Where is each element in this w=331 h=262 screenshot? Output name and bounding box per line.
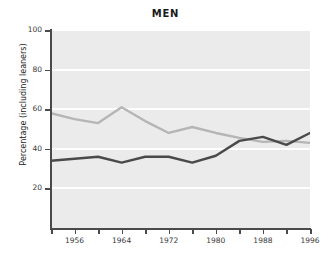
x-axis-tick [51,229,53,234]
x-axis-tick-label: 1996 [300,236,319,245]
chart-title: MEN [0,8,331,19]
y-axis-line [50,29,52,229]
x-axis-tick [310,229,312,234]
y-axis-tick-label: 60 [32,104,42,113]
x-axis-tick [263,229,265,234]
x-axis-tick [75,229,77,234]
series-line-dark-gray-line [51,133,310,163]
y-axis-tick [45,70,51,72]
y-axis-tick-label: 80 [32,65,42,74]
x-axis-tick [145,229,147,234]
y-axis-tick-label: 40 [32,144,42,153]
x-axis-tick-label: 1964 [112,236,131,245]
x-axis-tick [286,229,288,234]
x-axis-tick [239,229,241,234]
x-axis-line [50,228,311,230]
chart-container: MEN 10080604020 195619641972198019881996… [0,0,331,262]
y-axis-tick [45,30,51,32]
x-axis-tick-label: 1988 [253,236,272,245]
x-axis-tick [192,229,194,234]
x-axis-tick [216,229,218,234]
x-axis-tick-label: 1980 [206,236,225,245]
x-axis-tick [169,229,171,234]
y-axis-tick [45,149,51,151]
x-axis-tick-label: 1956 [65,236,84,245]
y-axis-tick-label: 20 [32,183,42,192]
series-line-light-gray-line [51,107,310,143]
y-axis-tick [45,109,51,111]
plot-area [51,30,310,228]
x-axis-tick [122,229,124,234]
series-lines [51,30,310,228]
y-axis-tick-label: 100 [28,25,42,34]
x-axis-tick [98,229,100,234]
y-axis-title: Percentage (including leaners) [19,25,28,185]
x-axis-tick-label: 1972 [159,236,178,245]
y-axis-tick [45,188,51,190]
